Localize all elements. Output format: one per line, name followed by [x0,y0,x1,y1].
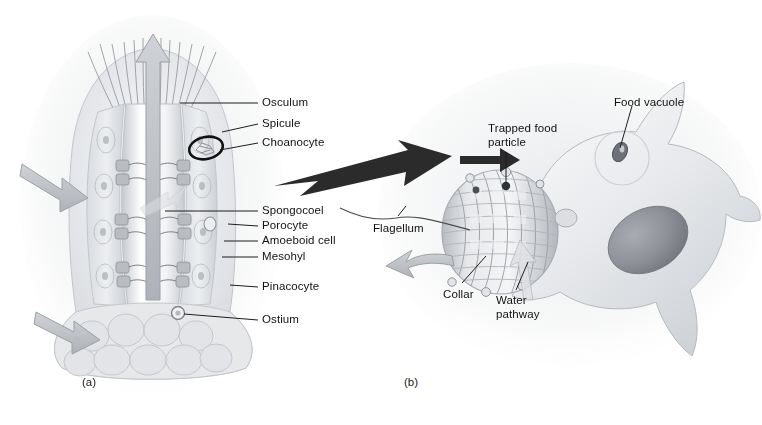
label-collar: Collar [443,288,474,302]
label-mesohyl: Mesohyl [262,250,306,264]
label-spicule: Spicule [262,117,300,131]
label-amoeboid-cell: Amoeboid cell [262,234,336,248]
ostium-pore [172,307,185,320]
label-trapped-food-particle: Trapped food particle [488,122,557,149]
illustration-canvas [0,0,762,425]
label-flagellum: Flagellum [373,222,424,236]
label-pinacocyte: Pinacocyte [262,280,319,294]
caption-panel-b: (b) [404,376,418,388]
label-food-vacuole: Food vacuole [614,96,684,110]
figure-root: Osculum Spicule Choanocyte Spongocoel Po… [0,0,762,425]
label-porocyte: Porocyte [262,219,308,233]
caption-panel-a: (a) [82,376,96,388]
label-choanocyte: Choanocyte [262,136,324,150]
label-spongocoel: Spongocoel [262,204,324,218]
label-ostium: Ostium [262,313,299,327]
label-water-pathway: Water pathway [496,294,540,321]
label-osculum: Osculum [262,96,308,110]
porocyte-pore [204,217,216,231]
cell-knob [555,209,577,227]
